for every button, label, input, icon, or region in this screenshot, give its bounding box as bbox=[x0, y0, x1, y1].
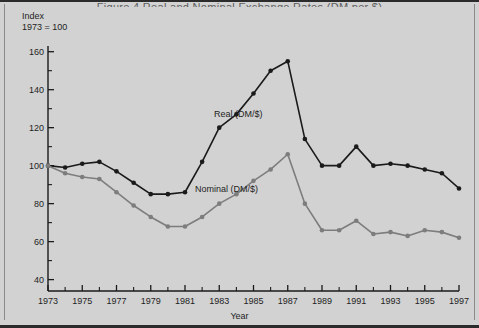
y-tick-label: 140 bbox=[22, 85, 44, 95]
data-series-layer bbox=[46, 59, 462, 240]
x-tick-label: 1993 bbox=[374, 296, 408, 306]
x-tick-label: 1975 bbox=[65, 296, 99, 306]
x-axis-ticks bbox=[48, 285, 459, 291]
y-tick-label: 120 bbox=[22, 123, 44, 133]
x-tick-label: 1987 bbox=[271, 296, 305, 306]
y-tick-label: 160 bbox=[22, 47, 44, 57]
y-tick-label: 40 bbox=[22, 275, 44, 285]
y-tick-label: 80 bbox=[22, 199, 44, 209]
y-tick-label: 60 bbox=[22, 237, 44, 247]
x-tick-label: 1985 bbox=[237, 296, 271, 306]
line-chart bbox=[48, 46, 459, 291]
x-tick-label: 1991 bbox=[339, 296, 373, 306]
y-axis-title: Index 1973 = 100 bbox=[22, 11, 67, 33]
x-tick-label: 1979 bbox=[134, 296, 168, 306]
x-tick-label: 1973 bbox=[31, 296, 65, 306]
figure-frame: Figure 4 Real and Nominal Exchange Rates… bbox=[0, 0, 479, 328]
figure-title-cropped: Figure 4 Real and Nominal Exchange Rates… bbox=[0, 2, 479, 7]
x-tick-label: 1989 bbox=[305, 296, 339, 306]
axis-lines bbox=[48, 46, 459, 291]
y-tick-label: 100 bbox=[22, 161, 44, 171]
x-tick-label: 1995 bbox=[408, 296, 442, 306]
series-real bbox=[46, 59, 462, 197]
x-tick-label: 1981 bbox=[168, 296, 202, 306]
series-label-real: Real (DM/$) bbox=[214, 109, 263, 119]
series-label-nominal: Nominal (DM/$) bbox=[195, 184, 258, 194]
y-axis-title-line1: Index bbox=[22, 11, 44, 21]
x-tick-label: 1977 bbox=[100, 296, 134, 306]
x-tick-label: 1997 bbox=[442, 296, 476, 306]
x-axis-title: Year bbox=[0, 311, 479, 321]
x-tick-label: 1983 bbox=[202, 296, 236, 306]
plot-area bbox=[48, 46, 459, 291]
y-axis-title-line2: 1973 = 100 bbox=[22, 22, 67, 33]
